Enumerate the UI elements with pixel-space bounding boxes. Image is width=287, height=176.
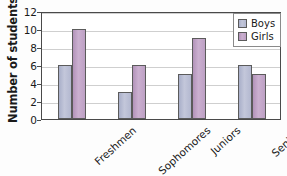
bar-juniors-girls (192, 38, 206, 119)
bar-freshmen-boys (58, 65, 72, 119)
legend: BoysGirls (233, 13, 281, 47)
bar-freshmen-girls (72, 29, 86, 119)
bar-sophomores-boys (118, 92, 132, 119)
legend-item-boys: Boys (238, 17, 277, 30)
bar-seniors-boys (238, 65, 252, 119)
legend-label-boys: Boys (251, 19, 275, 29)
legend-label-girls: Girls (251, 32, 274, 42)
bar-juniors-boys (178, 74, 192, 119)
y-axis-tick-mark (37, 120, 41, 121)
bar-seniors-girls (252, 74, 266, 119)
bar-sophomores-girls (132, 65, 146, 119)
y-axis-tick-label: 10 (18, 25, 37, 36)
y-axis-tick-label: 6 (18, 61, 37, 72)
legend-swatch-boys (238, 19, 247, 28)
legend-item-girls: Girls (238, 30, 277, 43)
y-axis-tick-label: 0 (18, 115, 37, 126)
bar-chart: Number of students 024681012 FreshmenSop… (0, 0, 287, 176)
y-axis-tick-label: 2 (18, 97, 37, 108)
y-axis-tick-label: 4 (18, 79, 37, 90)
y-axis-tick-label: 8 (18, 43, 37, 54)
legend-swatch-girls (238, 32, 247, 41)
y-axis-tick-label: 12 (18, 7, 37, 18)
